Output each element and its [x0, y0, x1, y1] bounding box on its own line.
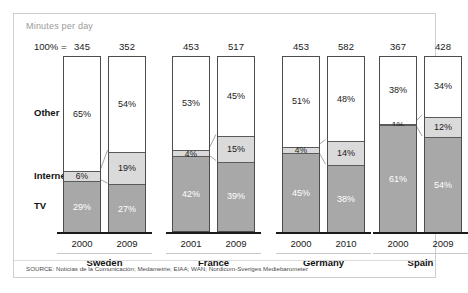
bar-segment-internet: 4%	[173, 150, 209, 157]
group-rule	[166, 253, 261, 254]
bar-segment-other: 65%	[64, 57, 100, 171]
bar-segment-tv: 54%	[425, 138, 461, 233]
bar-segment-other: 34%	[425, 57, 461, 117]
bar-segment-internet: 19%	[109, 152, 145, 185]
segment-value-label: 53%	[182, 99, 200, 108]
year-label: 2010	[322, 238, 370, 249]
segment-value-label: 65%	[73, 110, 91, 119]
stacked-bar: 51%4%45%	[282, 56, 320, 232]
segment-value-label: 38%	[389, 86, 407, 95]
bar-total-label: 517	[217, 41, 255, 52]
bar-segment-tv: 61%	[380, 126, 416, 233]
bar-total-label: 453	[282, 41, 320, 52]
bar-segment-other: 45%	[218, 57, 254, 136]
bar-segment-internet: 14%	[328, 141, 364, 166]
year-label: 2000	[58, 238, 106, 249]
segment-value-label: 45%	[292, 189, 310, 198]
bar-segment-tv: 38%	[328, 166, 364, 233]
bar-segment-other: 38%	[380, 57, 416, 124]
stacked-bar: 48%14%38%	[327, 56, 365, 232]
segment-value-label: 48%	[337, 95, 355, 104]
segment-value-label: 61%	[389, 175, 407, 184]
segment-value-label: 29%	[73, 203, 91, 212]
bar-total-label: 352	[108, 41, 146, 52]
source-divider	[14, 260, 435, 261]
segment-value-label: 38%	[337, 195, 355, 204]
source-note: SOURCE: Noticias de la Comunicación; Med…	[26, 265, 308, 272]
segment-value-label: 15%	[227, 145, 245, 154]
bar-segment-internet: 6%	[64, 171, 100, 182]
stacked-bar: 54%19%27%	[108, 56, 146, 232]
bar-segment-other: 54%	[109, 57, 145, 152]
bar-segment-internet: 4%	[283, 147, 319, 154]
bar-segment-tv: 39%	[218, 163, 254, 232]
year-label: 2009	[419, 238, 467, 249]
bar-segment-internet: 15%	[218, 136, 254, 162]
group-baseline	[373, 232, 468, 234]
bar-segment-tv: 27%	[109, 185, 145, 233]
segment-value-label: 27%	[118, 205, 136, 214]
plot-area: 65%6%29%345200054%19%27%3522009Sweden53%…	[14, 14, 435, 277]
stacked-bar: 53%4%42%	[172, 56, 210, 232]
year-label: 2009	[103, 238, 151, 249]
segment-value-label: 45%	[227, 92, 245, 101]
bar-segment-other: 53%	[173, 57, 209, 150]
segment-value-label: 39%	[227, 192, 245, 201]
segment-value-label: 51%	[292, 97, 310, 106]
stacked-bar: 38%1%61%	[379, 56, 417, 232]
segment-value-label: 42%	[182, 190, 200, 199]
segment-value-label: 12%	[434, 123, 452, 132]
segment-value-label: 6%	[76, 172, 88, 181]
year-label: 2000	[277, 238, 325, 249]
year-label: 2001	[167, 238, 215, 249]
segment-value-label: 34%	[434, 82, 452, 91]
group-name-spain: Spain	[373, 257, 468, 268]
segment-value-label: 54%	[118, 100, 136, 109]
group-baseline	[276, 232, 371, 234]
chart-frame: Minutes per day 100% = Other Internet TV…	[13, 13, 436, 278]
bar-segment-other: 48%	[328, 57, 364, 141]
year-label: 2000	[374, 238, 422, 249]
bar-total-label: 345	[63, 41, 101, 52]
segment-value-label: 14%	[337, 149, 355, 158]
bar-total-label: 428	[424, 41, 462, 52]
bar-segment-other: 51%	[283, 57, 319, 147]
stacked-bar: 65%6%29%	[63, 56, 101, 232]
year-label: 2009	[212, 238, 260, 249]
stacked-bar: 45%15%39%	[217, 56, 255, 232]
group-rule	[276, 253, 371, 254]
bar-segment-tv: 42%	[173, 157, 209, 231]
bar-total-label: 582	[327, 41, 365, 52]
bar-segment-tv: 45%	[283, 154, 319, 233]
bar-segment-internet: 12%	[425, 117, 461, 138]
stacked-bar: 34%12%54%	[424, 56, 462, 232]
group-baseline	[57, 232, 152, 234]
bar-total-label: 453	[172, 41, 210, 52]
group-baseline	[166, 232, 261, 234]
group-rule	[373, 253, 468, 254]
bar-segment-tv: 29%	[64, 182, 100, 233]
segment-value-label: 54%	[434, 181, 452, 190]
group-rule	[57, 253, 152, 254]
bar-total-label: 367	[379, 41, 417, 52]
segment-value-label: 19%	[118, 164, 136, 173]
